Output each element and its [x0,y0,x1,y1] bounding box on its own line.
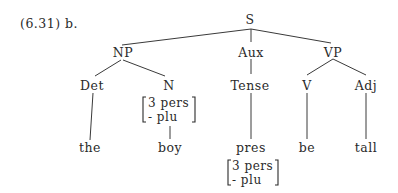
edge-NP-N [123,60,165,76]
node-Aux: Aux [237,45,264,60]
node-N: N [163,78,174,93]
syntax-tree: (6.31) b. S NP Aux VP Det N Tense V Adj … [0,0,398,193]
node-V: V [301,78,312,93]
node-Tense: Tense [230,78,269,93]
node-NP: NP [113,45,133,60]
feature-N-person: 3 pers [148,96,189,110]
edge-VP-Adj [333,59,366,75]
left-bracket [228,160,231,185]
word-the: the [79,140,101,155]
feature-pres-person: 3 pers [232,159,273,173]
feature-matrix-pres: 3 pers - plu [228,159,278,187]
example-label: (6.31) b. [20,16,78,31]
left-bracket [143,97,146,122]
edge-S-VP [251,29,331,43]
right-bracket [275,160,278,185]
edge-VP-V [307,59,333,75]
word-pres: pres [236,140,266,155]
word-boy: boy [158,140,183,155]
edge-S-NP [122,29,251,45]
edge-Det-the [90,93,93,140]
feature-matrix-N: 3 pers - plu [143,96,195,124]
word-be: be [299,140,315,155]
word-tall: tall [355,140,377,155]
feature-N-plural: - plu [148,110,178,124]
feature-pres-plural: - plu [232,173,262,187]
edge-NP-Det [95,60,121,76]
node-Adj: Adj [354,78,377,93]
node-S: S [245,12,254,27]
node-Det: Det [80,78,104,93]
right-bracket [192,97,195,122]
node-VP: VP [323,45,342,60]
